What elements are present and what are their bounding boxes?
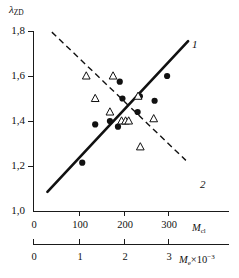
data-point-filled-circle [92, 121, 98, 127]
data-point-open-triangle [106, 108, 114, 115]
plot-area [0, 0, 239, 278]
trend-line-1 [47, 41, 188, 192]
data-point-filled-circle [107, 118, 113, 124]
data-point-open-triangle [109, 72, 117, 79]
data-point-open-triangle [82, 72, 90, 79]
trend-line-solid [47, 41, 188, 192]
data-point-filled-circle [79, 160, 85, 166]
data-point-open-triangle [136, 143, 144, 150]
data-point-open-triangle [91, 94, 99, 101]
trend-line-dashed [52, 32, 186, 160]
data-point-filled-circle [164, 73, 170, 79]
data-point-filled-circle [135, 109, 141, 115]
data-point-filled-circle [152, 98, 158, 104]
trend-line-2 [52, 32, 186, 160]
data-point-open-triangle [150, 115, 158, 122]
chart-figure: λZD 1,8 1,6 1,4 1,2 1,0 0 100 200 300 Mc… [0, 0, 239, 278]
data-point-filled-circle [119, 95, 125, 101]
